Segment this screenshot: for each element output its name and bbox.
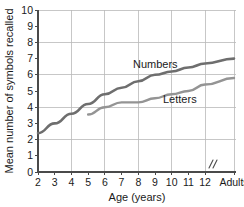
y-axis-label: Mean number of symbols recalled xyxy=(3,8,15,173)
series-label-numbers: Numbers xyxy=(133,58,178,70)
axis-break-mark xyxy=(209,160,217,168)
series-label-letters: Letters xyxy=(163,93,197,105)
gridlines-horizontal xyxy=(38,10,236,140)
svg-text:6: 6 xyxy=(27,68,33,80)
gridlines-vertical xyxy=(71,10,234,172)
svg-text:2: 2 xyxy=(35,176,41,188)
svg-text:10: 10 xyxy=(166,176,178,188)
svg-text:5: 5 xyxy=(27,85,33,97)
svg-text:Adults: Adults xyxy=(219,176,244,188)
chart-container: 012345678910 23456789101112Adults Number… xyxy=(0,0,244,207)
svg-text:6: 6 xyxy=(102,176,108,188)
svg-text:2: 2 xyxy=(27,133,33,145)
svg-text:8: 8 xyxy=(135,176,141,188)
svg-text:7: 7 xyxy=(27,52,33,64)
svg-text:5: 5 xyxy=(85,176,91,188)
x-axis-tick-labels: 23456789101112Adults xyxy=(35,176,244,188)
svg-text:4: 4 xyxy=(68,176,74,188)
line-chart: 012345678910 23456789101112Adults Number… xyxy=(0,0,244,207)
svg-text:7: 7 xyxy=(119,176,125,188)
svg-text:4: 4 xyxy=(27,101,33,113)
x-axis-label: Age (years) xyxy=(109,191,166,203)
svg-text:12: 12 xyxy=(199,176,211,188)
svg-text:3: 3 xyxy=(52,176,58,188)
svg-text:0: 0 xyxy=(27,166,33,178)
y-axis-tick-labels: 012345678910 xyxy=(21,4,33,178)
svg-text:1: 1 xyxy=(27,149,33,161)
svg-text:10: 10 xyxy=(21,4,33,16)
svg-text:3: 3 xyxy=(27,117,33,129)
series-line-letters xyxy=(88,78,234,114)
svg-text:9: 9 xyxy=(152,176,158,188)
svg-text:9: 9 xyxy=(27,20,33,32)
svg-text:11: 11 xyxy=(183,176,194,188)
svg-text:8: 8 xyxy=(27,36,33,48)
